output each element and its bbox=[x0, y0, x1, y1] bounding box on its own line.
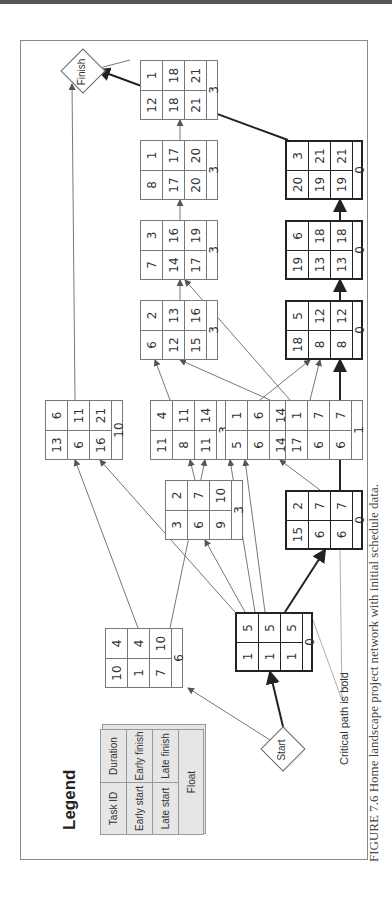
task-11: 114 811 1114 3 bbox=[150, 400, 228, 460]
task-10: 104 14 710 6 bbox=[105, 628, 183, 688]
legend-task-id: Task ID bbox=[101, 782, 127, 834]
task-7: 73 1416 1719 3 bbox=[140, 220, 218, 280]
task-19: 196 1318 1318 0 bbox=[285, 220, 363, 280]
task-17: 171 67 67 1 bbox=[285, 400, 363, 460]
legend-early-finish: Early finish bbox=[127, 730, 153, 782]
network-diagram: Legend Task ID Duration Early start Earl… bbox=[20, 38, 370, 860]
legend-duration: Duration bbox=[101, 730, 127, 782]
legend-early-start: Early start bbox=[127, 782, 153, 834]
task-6: 62 1213 1516 3 bbox=[140, 300, 218, 360]
legend-float: Float bbox=[179, 730, 203, 834]
top-border-bar bbox=[0, 0, 392, 4]
task-15: 152 67 67 0 bbox=[285, 490, 363, 550]
task-1: 15 15 15 0 bbox=[235, 612, 313, 672]
legend-grid: Task ID Duration Early start Early finis… bbox=[100, 729, 204, 835]
critical-path-note: Critical path is bold bbox=[338, 672, 350, 765]
task-13: 136 611 1621 10 bbox=[45, 400, 123, 460]
task-8: 81 1717 2020 3 bbox=[140, 140, 218, 200]
legend-late-finish: Late finish bbox=[153, 730, 179, 782]
task-18: 185 812 812 0 bbox=[285, 300, 363, 360]
legend-late-start: Late start bbox=[153, 782, 179, 834]
task-20: 203 1921 1921 0 bbox=[285, 140, 363, 200]
figure-caption-outer: FIGURE 7.6 Home landscape project networ… bbox=[366, 484, 382, 862]
finish-label: Finish bbox=[76, 50, 87, 94]
figure-caption-text: FIGURE 7.6 Home landscape project networ… bbox=[366, 484, 381, 862]
task-12: 121 1818 2121 3 bbox=[140, 60, 218, 120]
start-label: Start bbox=[276, 728, 287, 772]
task-3: 32 67 910 3 bbox=[165, 480, 243, 540]
legend-title: Legend bbox=[60, 770, 80, 830]
